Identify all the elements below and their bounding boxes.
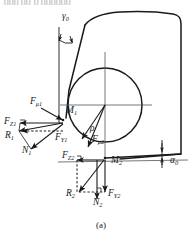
label-M1: M1 — [65, 105, 77, 116]
label-gamma0: γ0 — [62, 11, 70, 22]
label-R1: R1 — [4, 130, 14, 141]
figure-root: ⌷⌷⌷ ⌷⌷ ⌷ ⌷⌷⌷⌷⌷⌷ — [0, 0, 193, 236]
label-R2: R2 — [65, 188, 76, 199]
force-diagram-svg: γ0 α0 M1 M2 ρ Fμ1 FZ1 R1 FY1 N1 Fμ2 FZ2 … — [0, 0, 193, 236]
label-N1: N1 — [21, 145, 32, 156]
figure-caption: (a) — [96, 220, 106, 230]
label-alpha0: α0 — [170, 155, 179, 166]
label-FY2: FY2 — [107, 188, 121, 199]
label-FZ1: FZ1 — [3, 116, 16, 127]
force-system-m2 — [77, 156, 106, 199]
label-rho: ρ — [89, 123, 95, 133]
label-N2: N2 — [92, 197, 103, 208]
label-Fmu2: Fμ2 — [91, 134, 105, 145]
label-FZ2: FZ2 — [61, 150, 75, 161]
cropped-header-text-label: ⌷⌷⌷ ⌷⌷ ⌷ ⌷⌷⌷⌷⌷⌷ — [4, 0, 71, 8]
diagram-labels: γ0 α0 M1 M2 ρ Fμ1 FZ1 R1 FY1 N1 Fμ2 FZ2 … — [3, 11, 179, 230]
cropped-header-text: ⌷⌷⌷ ⌷⌷ ⌷ ⌷⌷⌷⌷⌷⌷ — [0, 0, 193, 9]
label-Fmu1: Fμ1 — [29, 96, 42, 107]
label-FY1: FY1 — [54, 132, 67, 143]
force-system-m1 — [19, 108, 64, 149]
